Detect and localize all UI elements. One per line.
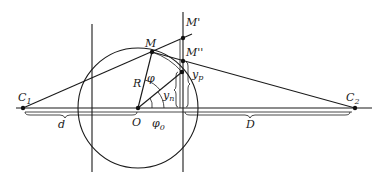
label-phi0: φ0	[152, 117, 165, 132]
label-M: M	[144, 37, 157, 50]
label-C1: C1	[18, 91, 32, 106]
point-C2	[353, 106, 357, 110]
angle-arc-phi0	[150, 98, 152, 108]
brace-d	[25, 112, 137, 118]
point-C1	[21, 106, 25, 110]
geometry-diagram: C1 C2 O M M' M'' R φ φ0 yn yp d D	[0, 0, 381, 186]
label-R: R	[132, 77, 141, 90]
label-M-double-prime: M''	[185, 46, 203, 59]
label-phi: φ	[147, 72, 155, 85]
point-M	[150, 50, 154, 54]
label-C2: C2	[346, 91, 360, 106]
point-O	[136, 106, 140, 110]
point-M-double-prime	[181, 59, 185, 63]
brace-yp	[174, 72, 178, 107]
label-M-prime: M'	[185, 16, 200, 29]
brace-yn	[186, 62, 190, 107]
label-yp: yp	[191, 68, 203, 82]
label-O: O	[132, 116, 141, 129]
brace-D	[185, 112, 350, 118]
point-P	[180, 70, 184, 74]
label-yn: yn	[162, 89, 174, 103]
label-D: D	[245, 118, 255, 131]
point-M-prime	[181, 36, 185, 40]
label-d: d	[58, 118, 65, 131]
